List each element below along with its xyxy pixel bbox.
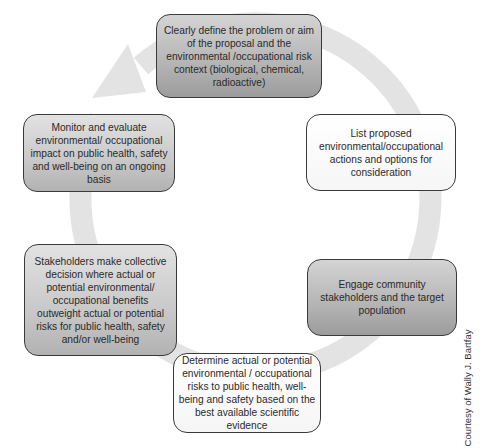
step-5-collective-decision: Stakeholders make collective decision wh… xyxy=(24,244,177,356)
step-4-determine-risks: Determine actual or potential environmen… xyxy=(173,353,321,433)
image-credit: Courtesy of Wally J. Bartfay xyxy=(462,330,473,447)
arrowhead-icon xyxy=(92,44,146,98)
step-2-list-actions: List proposed environmental/occupational… xyxy=(306,114,456,191)
step-5-text: Stakeholders make collective decision wh… xyxy=(31,255,170,346)
step-1-text: Clearly define the problem or aim of the… xyxy=(163,24,315,89)
step-2-text: List proposed environmental/occupational… xyxy=(313,127,449,179)
step-3-text: Engage community stakeholders and the ta… xyxy=(314,278,450,317)
step-6-text: Monitor and evaluate environmental/ occu… xyxy=(27,121,171,186)
step-6-monitor-evaluate: Monitor and evaluate environmental/ occu… xyxy=(23,114,175,192)
step-4-text: Determine actual or potential environmen… xyxy=(177,354,317,432)
step-1-define-problem: Clearly define the problem or aim of the… xyxy=(156,14,322,98)
step-3-engage-stakeholders: Engage community stakeholders and the ta… xyxy=(307,259,457,336)
